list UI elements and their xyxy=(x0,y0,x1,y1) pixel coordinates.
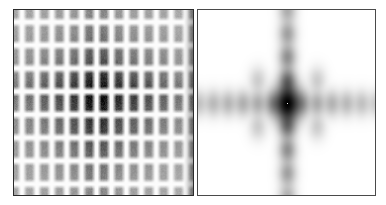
figure-canvas xyxy=(0,0,386,205)
real-space-lattice-panel xyxy=(13,9,194,196)
real-space-heatmap-canvas xyxy=(14,10,193,195)
fourier-transform-panel xyxy=(197,9,376,196)
fourier-transform-heatmap-canvas xyxy=(198,10,375,195)
